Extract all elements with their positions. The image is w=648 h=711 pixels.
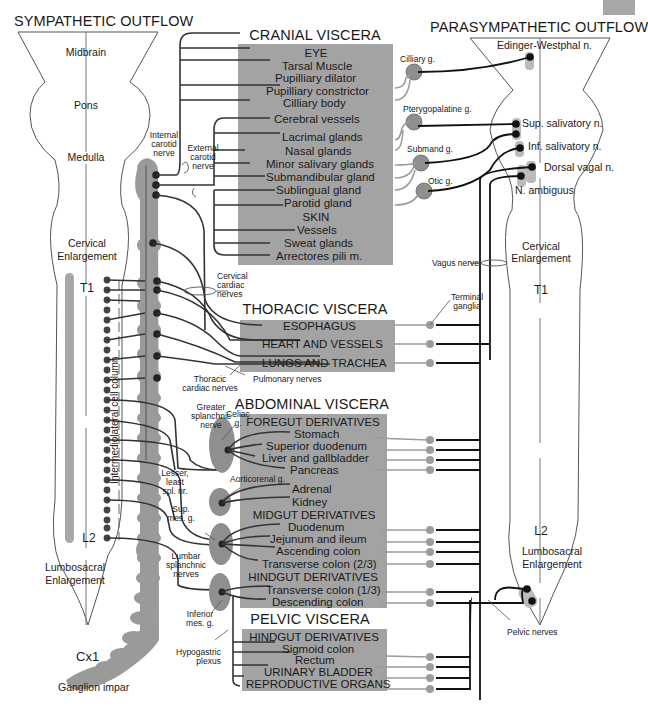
sympathetic-title: SYMPATHETIC OUTFLOW	[14, 14, 193, 29]
para-region-lumbosacral-enlargement: Enlargement	[522, 559, 582, 570]
sup-mes-ganglion-label: Sup. mes. g.	[167, 505, 195, 523]
organ-transverse-colon-1-3: Transverse colon (1/3)	[266, 584, 381, 596]
lumbar-splanchnic-label: Lumbar splanchnic nerves	[166, 552, 206, 579]
eye-header: EYE	[304, 47, 327, 59]
submandibular-ganglion-label: Submand g.	[407, 145, 453, 154]
organ-pupilliary-dilator: Pupilliary dilator	[275, 72, 356, 84]
nucleus-ambiguus: N. ambiguus	[515, 185, 574, 196]
hypogastric-plexus-label: Hypogastric plexus	[176, 648, 221, 666]
para-region-lumbosacral: Lumbosacral	[522, 546, 582, 557]
dorsal-vagal-nucleus: Dorsal vagal n.	[544, 162, 614, 173]
greater-splanchnic-label: Greater splanchnic nerve	[191, 403, 231, 430]
organ-adrenal: Adrenal	[292, 483, 332, 495]
organ-esophagus: ESOPHAGUS	[283, 320, 356, 332]
thoracic-viscera-title: THORACIC VISCERA	[242, 302, 387, 317]
region-medulla: Medulla	[68, 152, 105, 163]
ganglion-impar-label: Ganglion impar	[58, 682, 129, 693]
vagus-nerve-label: Vagus nerve	[432, 259, 479, 268]
organ-pupilliary-constrictor: Pupilliary constrictor	[266, 85, 369, 97]
celiac-ganglion-label: Celiac g.	[226, 410, 250, 428]
pelvic-viscera-title: PELVIC VISCERA	[250, 612, 370, 627]
organ-descending-colon: Descending colon	[272, 596, 363, 608]
terminal-ganglia-label: Terminal ganglia	[451, 293, 483, 311]
organ-rectum: Rectum	[295, 654, 335, 666]
organ-sublingual-gland: Sublingual gland	[276, 184, 361, 196]
sup-salivatory-nucleus: Sup. salivatory n.	[522, 118, 603, 129]
hindgut-header-abdominal: HINDGUT DERIVATIVES	[248, 571, 378, 583]
organ-jejunum-ileum: Jejunum and ileum	[270, 533, 367, 545]
external-carotid-label: External carotid nerve	[187, 144, 218, 171]
aorticorenal-label: Aorticorenal g.	[230, 475, 285, 484]
para-segment-t1: T1	[534, 284, 548, 297]
organ-stomach: Stomach	[294, 428, 339, 440]
inferior-mes-ganglion-label: Inferior mes. g.	[186, 610, 214, 628]
organ-liver-gallbladder: Liver and gallbladder	[262, 452, 369, 464]
organ-lungs-and-trachea: LUNGS AND TRACHEA	[262, 357, 386, 369]
thoracic-cardiac-label: Thoracic cardiac nerves	[182, 375, 237, 393]
edinger-westphal-nucleus: Edinger-Westphal n.	[497, 40, 592, 51]
pelvic-nerves-label: Pelvic nerves	[507, 628, 558, 637]
parasympathetic-title: PARASYMPATHETIC OUTFLOW	[430, 20, 648, 35]
organ-reproductive-organs: REPRODUCTIVE ORGANS	[246, 678, 390, 690]
organ-superior-duodenum: Superior duodenum	[266, 440, 367, 452]
region-lumbosacral-enlargement: Enlargement	[45, 575, 105, 586]
inf-salivatory-nucleus: Inf. salivatory n.	[528, 141, 602, 152]
segment-t1: T1	[80, 282, 94, 295]
abdominal-viscera-title: ABDOMINAL VISCERA	[235, 397, 389, 412]
organ-transverse-colon-2-3: Transverse colon (2/3)	[262, 558, 377, 570]
region-cervical: Cervical	[68, 238, 106, 249]
organ-parotid-gland: Parotid gland	[284, 197, 352, 209]
organ-arrectores-pili: Arrectores pili m.	[276, 250, 362, 262]
organ-tarsal-muscle: Tarsal Muscle	[282, 60, 352, 72]
coccygeal-cx1: Cx1	[76, 650, 99, 664]
skin-header: SKIN	[303, 211, 330, 223]
organ-duodenum: Duodenum	[288, 521, 344, 533]
organ-ascending-colon: Ascending colon	[276, 545, 360, 557]
para-region-cervical: Cervical	[522, 241, 560, 252]
lesser-splanchnic-label: Lesser, least spl. nr.	[161, 469, 188, 496]
para-segment-l2: L2	[534, 525, 547, 538]
internal-carotid-label: Internal carotid nerve	[150, 131, 178, 158]
organ-heart-and-vessels: HEART AND VESSELS	[262, 338, 383, 350]
otic-ganglion-label: Otic g.	[428, 177, 453, 186]
organ-pancreas: Pancreas	[290, 464, 339, 476]
ciliary-ganglion-label: Cilliary g.	[400, 55, 435, 64]
organ-sweat-glands: Sweat glands	[284, 237, 353, 249]
cervical-cardiac-label: Cervical cardiac nerves	[217, 272, 248, 299]
region-midbrain: Midbrain	[66, 47, 106, 58]
organ-cerebral-vessels: Cerebral vessels	[274, 113, 360, 125]
region-pons: Pons	[74, 100, 98, 111]
foregut-header: FOREGUT DERIVATIVES	[246, 416, 380, 428]
organ-nasal-glands: Nasal glands	[285, 145, 351, 157]
cranial-viscera-title: CRANIAL VISCERA	[249, 28, 381, 43]
organ-cilliary-body: Cilliary body	[283, 97, 346, 109]
segment-l2: L2	[82, 532, 95, 545]
midgut-header: MIDGUT DERIVATIVES	[253, 509, 376, 521]
organ-minor-salivary-glands: Minor salivary glands	[266, 158, 374, 170]
para-region-cervical-enlargement: Enlargement	[511, 253, 571, 264]
pulmonary-nerves-label: Pulmonary nerves	[253, 375, 322, 384]
organ-skin-vessels: Vessels	[297, 224, 337, 236]
hindgut-header-pelvic: HINDGUT DERIVATIVES	[249, 631, 379, 643]
organ-lacrimal-glands: Lacrimal glands	[282, 131, 363, 143]
intermediolateral-column-label: Intermediolateral cell column	[110, 357, 121, 484]
pterygopalatine-ganglion-label: Pterygopalatine g.	[403, 105, 472, 114]
region-lumbosacral: Lumbosacral	[45, 562, 105, 573]
region-cervical-enlargement: Enlargement	[57, 251, 117, 262]
organ-submandibular-gland: Submandibular gland	[266, 171, 375, 183]
organ-kidney: Kidney	[292, 496, 327, 508]
organ-urinary-bladder: URINARY BLADDER	[264, 666, 373, 678]
